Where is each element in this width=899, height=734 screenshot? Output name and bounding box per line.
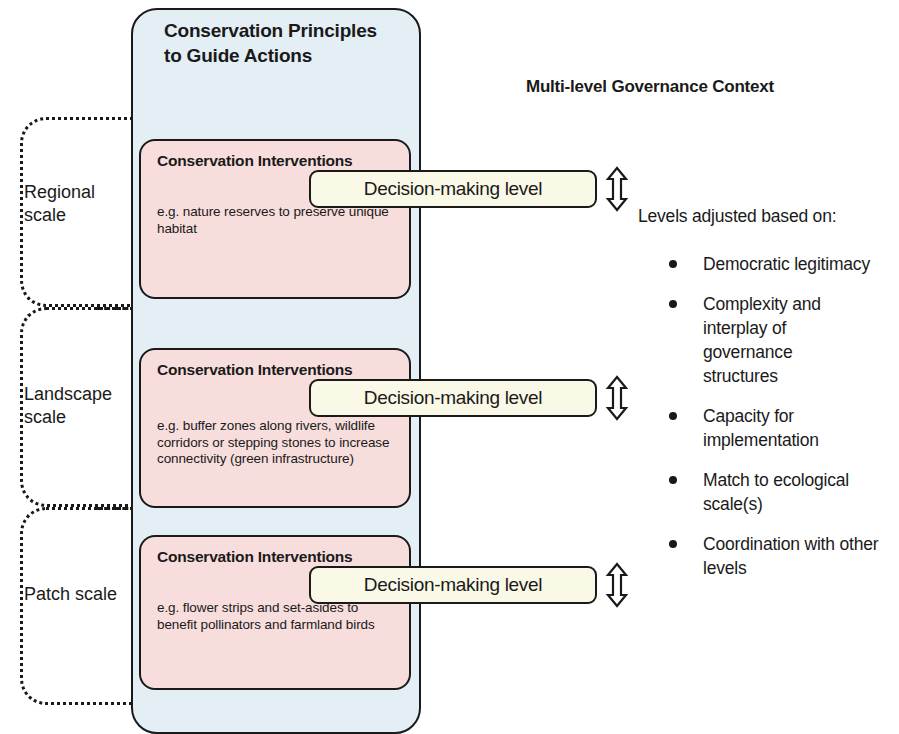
bullet-dot-icon	[669, 540, 677, 548]
scale-label-regional: Regional scale	[24, 181, 129, 227]
bullet-dot-icon	[669, 476, 677, 484]
list-item-label: Match to ecological scale(s)	[703, 470, 849, 514]
list-item-label: Complexity and interplay of governance s…	[703, 294, 821, 386]
double-arrow-icon-patch	[604, 562, 630, 608]
intervention-example-landscape: e.g. buffer zones along rivers, wildlife…	[157, 418, 397, 468]
list-item: Match to ecological scale(s)	[660, 468, 899, 516]
bullet-dot-icon	[669, 300, 677, 308]
list-item-label: Coordination with other levels	[703, 534, 878, 578]
bullet-dot-icon	[669, 412, 677, 420]
page-title: Conservation Principles to Guide Actions	[164, 18, 379, 68]
intervention-box-patch: Conservation Interventions e.g. flower s…	[139, 535, 411, 690]
levels-bullet-list: Democratic legitimacy Complexity and int…	[660, 252, 899, 596]
list-item: Complexity and interplay of governance s…	[660, 292, 853, 388]
scale-label-landscape: Landscape scale	[24, 383, 139, 429]
decision-level-box-landscape[interactable]: Decision-making level	[309, 379, 597, 417]
intervention-title-landscape: Conservation Interventions	[157, 360, 367, 379]
scale-label-patch: Patch scale	[24, 583, 129, 606]
intervention-example-regional: e.g. nature reserves to preserve unique …	[157, 204, 397, 237]
decision-level-box-patch[interactable]: Decision-making level	[309, 566, 597, 604]
intervention-box-regional: Conservation Interventions e.g. nature r…	[139, 139, 411, 299]
intervention-example-patch: e.g. flower strips and set-asides to ben…	[157, 600, 397, 633]
double-arrow-icon-landscape	[604, 375, 630, 421]
list-item-label: Democratic legitimacy	[703, 254, 870, 274]
list-item: Coordination with other levels	[660, 532, 898, 580]
governance-context-title: Multi-level Governance Context	[450, 77, 850, 97]
intervention-title-regional: Conservation Interventions	[157, 151, 367, 170]
list-item: Capacity for implementation	[660, 404, 883, 452]
levels-intro-text: Levels adjusted based on:	[638, 205, 893, 227]
decision-level-box-regional[interactable]: Decision-making level	[309, 170, 597, 208]
intervention-title-patch: Conservation Interventions	[157, 547, 367, 566]
intervention-box-landscape: Conservation Interventions e.g. buffer z…	[139, 348, 411, 508]
list-item-label: Capacity for implementation	[703, 406, 819, 450]
bullet-dot-icon	[669, 260, 677, 268]
double-arrow-icon-regional	[604, 166, 630, 212]
list-item: Democratic legitimacy	[660, 252, 899, 276]
